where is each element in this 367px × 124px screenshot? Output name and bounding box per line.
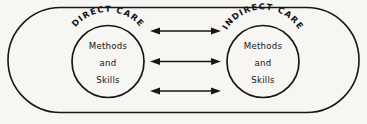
connector-bottom xyxy=(150,87,221,94)
indirect-care-line-1: Methods xyxy=(244,41,283,51)
connector-middle xyxy=(150,58,221,65)
group-indirect-care: INDIRECT CARE Methods and Skills xyxy=(220,2,306,98)
direct-care-line-2: and xyxy=(100,58,117,68)
connector-top xyxy=(150,27,221,34)
diagram-canvas: DIRECT CARE Methods and Skills INDIRECT … xyxy=(0,0,367,124)
indirect-care-arc-label: INDIRECT CARE xyxy=(220,2,306,32)
direct-care-line-3: Skills xyxy=(96,75,120,85)
direct-care-line-1: Methods xyxy=(89,41,128,51)
group-direct-care: DIRECT CARE Methods and Skills xyxy=(69,4,146,98)
outer-container xyxy=(8,8,359,113)
indirect-care-line-3: Skills xyxy=(251,75,275,85)
indirect-care-line-2: and xyxy=(255,58,272,68)
